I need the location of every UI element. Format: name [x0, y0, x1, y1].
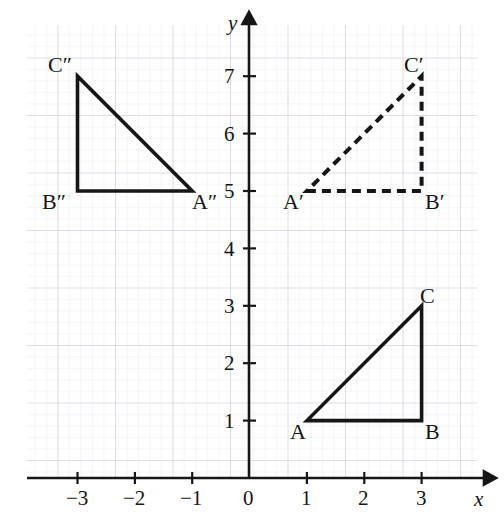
vertex-label-a: A [290, 421, 306, 443]
origin-label: 0 [243, 488, 254, 509]
y-axis-label: y [228, 13, 237, 34]
vertex-label-c: C [420, 285, 435, 307]
x-tick-label-2: 2 [358, 488, 369, 509]
vertex-label-b-prime: B′ [425, 191, 445, 213]
vertex-label-a-prime: A′ [283, 191, 304, 213]
y-tick-label-5: 5 [224, 181, 235, 202]
x-axis-label: x [474, 489, 483, 510]
vertex-label-b-double-prime: B″ [42, 191, 66, 213]
vertex-label-c-prime: C′ [404, 54, 424, 76]
x-tick-label--1: −1 [180, 488, 202, 509]
x-tick-label--3: −3 [66, 488, 88, 509]
vertex-label-a-double-prime: A″ [192, 191, 217, 213]
y-tick-label-3: 3 [224, 296, 235, 317]
y-tick-label-4: 4 [224, 239, 235, 260]
x-tick-label-3: 3 [416, 488, 427, 509]
y-tick-label-6: 6 [224, 124, 235, 145]
coordinate-plane-figure: −3 −2 −1 0 1 2 3 1 2 3 4 5 6 7 x y A B C… [0, 0, 504, 517]
y-tick-label-1: 1 [224, 411, 235, 432]
x-tick-label-1: 1 [301, 488, 312, 509]
y-tick-label-2: 2 [224, 353, 235, 374]
x-axis-arrowhead [484, 472, 496, 485]
vertex-label-c-double-prime: C″ [48, 54, 72, 76]
y-axis-arrowhead [243, 12, 256, 24]
vertex-label-b: B [425, 421, 440, 443]
x-tick-label--2: −2 [123, 488, 145, 509]
y-tick-label-7: 7 [224, 66, 235, 87]
